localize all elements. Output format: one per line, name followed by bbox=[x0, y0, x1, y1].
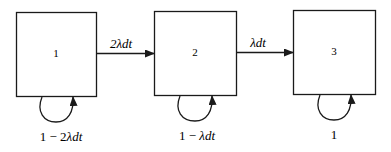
state-3-self-loop bbox=[318, 95, 351, 120]
transition-1-to-2: 2λdt bbox=[97, 36, 154, 54]
state-3: 3 1 bbox=[294, 11, 376, 143]
state-2-label: 2 bbox=[192, 46, 198, 58]
state-2-loop-label: 1 − λdt bbox=[179, 128, 215, 143]
state-1-loop-label: 1 − 2λdt bbox=[40, 129, 83, 144]
state-3-label: 3 bbox=[331, 45, 337, 57]
state-2: 2 1 − λdt bbox=[155, 12, 237, 144]
state-1-self-loop bbox=[40, 97, 73, 122]
state-1: 1 1 − 2λdt bbox=[17, 13, 97, 145]
markov-diagram: 1 1 − 2λdt 2 1 − λdt 3 1 2λdt λdt bbox=[0, 0, 391, 152]
transition-2-to-3: λdt bbox=[237, 35, 293, 53]
transition-2-to-3-label: λdt bbox=[249, 35, 266, 50]
state-2-self-loop bbox=[178, 96, 212, 121]
transition-1-to-2-label: 2λdt bbox=[110, 36, 133, 51]
state-3-loop-label: 1 bbox=[331, 127, 338, 142]
state-1-label: 1 bbox=[53, 47, 59, 59]
